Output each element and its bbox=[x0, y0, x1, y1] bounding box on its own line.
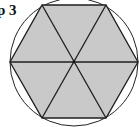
hexagon-in-circle-diagram bbox=[0, 0, 139, 127]
center-point bbox=[73, 61, 76, 64]
